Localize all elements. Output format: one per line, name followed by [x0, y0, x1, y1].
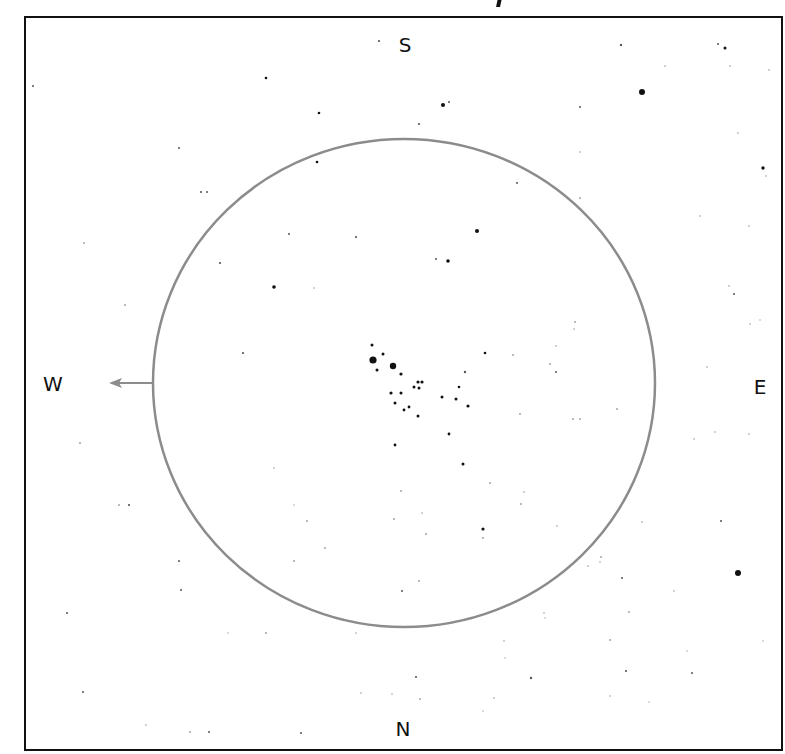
star	[79, 442, 81, 444]
star	[462, 463, 465, 466]
star	[227, 632, 228, 633]
star	[300, 732, 302, 734]
star	[360, 692, 362, 694]
star	[759, 319, 760, 320]
star	[579, 197, 581, 199]
star	[376, 369, 379, 372]
star	[481, 527, 484, 530]
star	[324, 547, 326, 549]
star	[306, 520, 308, 522]
star	[178, 147, 180, 149]
star	[620, 44, 622, 46]
star	[714, 431, 716, 433]
star	[418, 123, 420, 125]
star-chart	[0, 0, 785, 754]
star	[609, 639, 611, 641]
star	[390, 363, 396, 369]
star	[737, 132, 739, 134]
star	[599, 561, 601, 563]
star	[749, 323, 751, 325]
star	[519, 413, 521, 415]
star	[208, 731, 210, 733]
star	[520, 503, 522, 505]
star	[448, 433, 451, 436]
star	[118, 504, 120, 506]
star	[400, 490, 402, 492]
star	[523, 491, 525, 493]
star	[82, 691, 84, 693]
star	[686, 650, 687, 651]
star	[648, 701, 649, 702]
star	[389, 391, 392, 394]
star	[394, 444, 397, 447]
star	[748, 433, 750, 435]
star	[458, 386, 461, 389]
star	[293, 560, 295, 562]
star	[512, 354, 514, 356]
star	[489, 482, 491, 484]
star	[124, 304, 126, 306]
star	[762, 640, 763, 641]
star	[475, 229, 479, 233]
star	[417, 415, 420, 418]
star	[579, 418, 581, 420]
star	[609, 695, 611, 697]
star	[503, 640, 505, 642]
star	[600, 556, 602, 558]
star	[408, 406, 411, 409]
star	[572, 418, 574, 420]
star	[616, 408, 618, 410]
star	[728, 285, 730, 287]
star	[720, 520, 722, 522]
star	[66, 612, 68, 614]
star	[555, 345, 557, 347]
star	[83, 242, 85, 244]
star	[288, 233, 290, 235]
star	[378, 40, 380, 42]
star	[399, 372, 402, 375]
star	[768, 69, 770, 71]
star	[717, 43, 719, 45]
star	[706, 366, 708, 368]
star	[178, 560, 180, 562]
star	[448, 101, 450, 103]
star	[369, 356, 376, 363]
star	[729, 65, 731, 67]
star	[219, 262, 221, 264]
star	[400, 392, 403, 395]
star	[441, 103, 445, 107]
star	[641, 521, 643, 523]
star	[549, 363, 551, 365]
star	[416, 380, 419, 383]
star	[441, 396, 444, 399]
star	[748, 225, 750, 227]
star	[293, 504, 294, 505]
star	[145, 724, 147, 726]
star	[415, 676, 417, 678]
star	[318, 112, 321, 115]
star	[455, 398, 458, 401]
star	[544, 617, 545, 618]
star	[189, 731, 191, 733]
star	[466, 404, 469, 407]
star	[355, 236, 357, 238]
star	[371, 344, 374, 347]
star	[673, 590, 675, 592]
star	[579, 151, 581, 153]
compass-east-label: E	[754, 377, 767, 397]
star	[180, 589, 182, 591]
star	[435, 258, 437, 260]
star	[587, 565, 589, 567]
star	[200, 191, 202, 193]
star	[403, 409, 406, 412]
star	[316, 161, 319, 164]
star	[691, 672, 693, 674]
star	[761, 166, 764, 169]
star	[401, 590, 403, 592]
star	[265, 632, 267, 634]
star	[530, 677, 532, 679]
star	[482, 537, 484, 539]
star	[393, 518, 395, 520]
star	[699, 215, 701, 217]
star	[482, 710, 483, 711]
